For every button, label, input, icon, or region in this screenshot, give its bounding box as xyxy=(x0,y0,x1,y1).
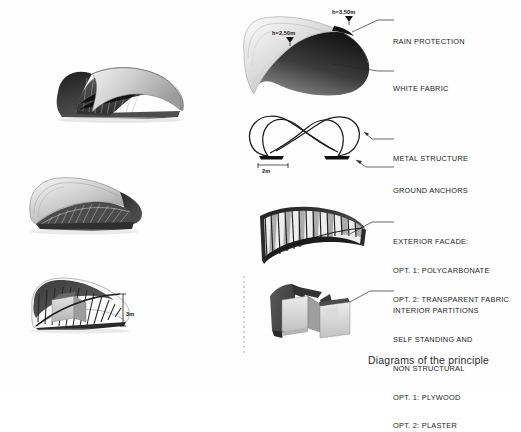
leader-ground-anchors xyxy=(348,156,396,172)
height-marker-250 xyxy=(283,34,297,48)
dimension-2m-label: 2m xyxy=(262,168,270,174)
pavilion-view-roof-underside xyxy=(22,172,152,240)
label-white-fabric: WHITE FABRIC xyxy=(393,65,449,113)
section-divider-dashed xyxy=(241,276,247,356)
leader-interior-partitions xyxy=(348,288,396,306)
height-label-250: h=2,50m xyxy=(272,30,295,36)
leader-rain-protection xyxy=(350,14,396,36)
sheet-caption: Diagrams of the principle xyxy=(368,354,489,366)
label-ground-anchors: GROUND ANCHORS xyxy=(393,167,468,215)
dimension-3m-label: 3m xyxy=(126,311,134,317)
leader-white-fabric xyxy=(330,62,396,76)
leader-exterior-facade xyxy=(348,218,396,238)
label-rain-protection: RAIN PROTECTION xyxy=(393,18,465,66)
leader-metal-structure xyxy=(362,130,396,146)
pavilion-view-exterior-front xyxy=(52,62,192,132)
